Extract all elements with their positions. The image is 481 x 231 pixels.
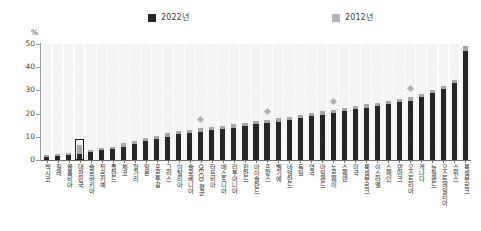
- bar-2012: [397, 99, 402, 102]
- bar-group[interactable]: [463, 46, 468, 160]
- bar-group[interactable]: [165, 133, 170, 160]
- bar-group[interactable]: [441, 86, 446, 160]
- bar-group[interactable]: [176, 131, 181, 160]
- x-tick-mark: [102, 160, 103, 163]
- bar-2012: [342, 108, 347, 111]
- bar-group[interactable]: [253, 121, 258, 160]
- bar-group[interactable]: [364, 104, 369, 160]
- x-tick-mark: [58, 160, 59, 163]
- x-axis-label: 캐나다: [418, 164, 426, 182]
- bar-group[interactable]: [220, 126, 225, 160]
- bar-2022: [165, 137, 170, 160]
- bar-2012: [287, 117, 292, 120]
- bar-group[interactable]: [121, 143, 126, 160]
- x-axis-label: 미국: [352, 164, 360, 176]
- bar-group[interactable]: [430, 90, 435, 160]
- bar-2022: [320, 115, 325, 160]
- bar-2022: [397, 102, 402, 160]
- column-band: [53, 44, 63, 160]
- bar-2012: [320, 111, 325, 114]
- bar-group[interactable]: [242, 123, 247, 160]
- bar-2022: [176, 134, 181, 160]
- bar-group[interactable]: [198, 128, 203, 160]
- bar-2012: [231, 124, 236, 127]
- x-axis-label: 튀르키예: [98, 164, 106, 188]
- x-tick-mark: [333, 160, 334, 163]
- bar-group[interactable]: [132, 141, 137, 160]
- bar-2012: [298, 115, 303, 118]
- x-axis-label: 에스토니아: [220, 164, 228, 194]
- bar-2022: [452, 83, 457, 160]
- y-axis-unit: %: [31, 28, 38, 37]
- bar-2022: [276, 122, 281, 161]
- bar-group[interactable]: [187, 130, 192, 160]
- bar-group[interactable]: [99, 148, 104, 160]
- x-axis-label: 칠레: [54, 164, 62, 176]
- x-tick-mark: [399, 160, 400, 163]
- bar-group[interactable]: [209, 127, 214, 160]
- bar-2022: [198, 132, 203, 160]
- bar-2012: [176, 131, 181, 134]
- bar-group[interactable]: [66, 153, 71, 160]
- bar-group[interactable]: [452, 80, 457, 160]
- bar-group[interactable]: [353, 106, 358, 160]
- x-tick-mark: [344, 160, 345, 163]
- bar-group[interactable]: [298, 115, 303, 160]
- y-tick-label: 20: [21, 110, 35, 117]
- bar-group[interactable]: [287, 117, 292, 160]
- x-axis-label: 슬로바키아: [87, 164, 95, 194]
- legend-swatch-2022: [148, 14, 156, 22]
- x-axis-label: 체코: [120, 164, 128, 176]
- bar-group[interactable]: [342, 108, 347, 160]
- bar-2012: [143, 138, 148, 142]
- x-tick-mark: [223, 160, 224, 163]
- column-band: [97, 44, 107, 160]
- x-axis-label: 프랑스: [264, 164, 272, 182]
- bar-group[interactable]: [110, 147, 115, 160]
- bar-group[interactable]: [375, 103, 380, 160]
- x-axis-label: 노르웨이: [330, 164, 338, 188]
- bar-group[interactable]: [419, 94, 424, 160]
- bar-2012: [309, 113, 314, 116]
- x-tick-mark: [432, 160, 433, 163]
- legend-label-2022: 2022년: [161, 13, 189, 22]
- bar-2022: [298, 118, 303, 160]
- x-axis-label: 대한민국: [76, 164, 84, 188]
- bar-2012: [463, 46, 468, 51]
- x-tick-mark: [135, 160, 136, 163]
- y-tick-label: 10: [21, 133, 35, 140]
- bar-2022: [242, 126, 247, 160]
- bar-group[interactable]: [309, 113, 314, 160]
- x-tick-mark: [91, 160, 92, 163]
- x-axis-label: 폴란드: [109, 164, 117, 182]
- bar-group[interactable]: [276, 118, 281, 160]
- x-tick-mark: [366, 160, 367, 163]
- bar-2022: [264, 123, 269, 160]
- bar-2022: [253, 124, 258, 160]
- x-tick-mark: [454, 160, 455, 163]
- x-tick-mark: [410, 160, 411, 163]
- bar-2022: [143, 141, 148, 160]
- x-axis-label: 헝가리: [131, 164, 139, 182]
- x-tick-mark: [201, 160, 202, 163]
- x-axis-label: 오스트레일리아: [440, 164, 448, 206]
- column-band: [42, 44, 52, 160]
- bar-2012: [55, 154, 60, 155]
- bar-group[interactable]: [143, 138, 148, 160]
- legend-item-2012: 2012년: [332, 13, 373, 22]
- bar-2022: [309, 116, 314, 160]
- bar-group[interactable]: [264, 120, 269, 160]
- bar-group[interactable]: [154, 136, 159, 160]
- bar-group[interactable]: [386, 101, 391, 160]
- bar-group[interactable]: [88, 150, 93, 160]
- x-tick-mark: [311, 160, 312, 163]
- bar-group[interactable]: [320, 111, 325, 160]
- bar-group[interactable]: [408, 97, 413, 160]
- bar-2022: [231, 128, 236, 160]
- bar-group[interactable]: [331, 110, 336, 160]
- bar-group[interactable]: [397, 99, 402, 160]
- bar-group[interactable]: [231, 124, 236, 160]
- bar-2012: [132, 141, 137, 144]
- x-axis-label: 이탈리아: [175, 164, 183, 188]
- bar-2012: [264, 120, 269, 123]
